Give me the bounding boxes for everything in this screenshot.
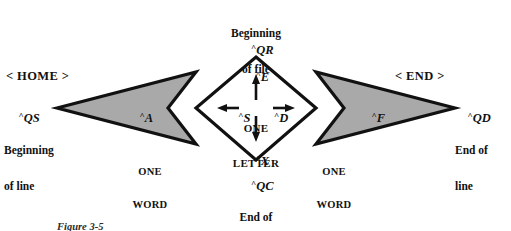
right-description: End of line xyxy=(455,120,511,217)
right-unit-label: ONE WORD xyxy=(289,144,379,231)
top-inner-command: ^E xyxy=(226,58,286,97)
top-inner-command-text: E xyxy=(261,70,269,84)
center-unit-line1: ONE xyxy=(216,123,296,135)
left-word-command: ^A xyxy=(115,99,165,138)
left-word-command-text: A xyxy=(145,111,153,125)
top-command-text: QR xyxy=(256,43,273,57)
end-key-label: < END > xyxy=(395,70,510,83)
left-description-line1: Beginning xyxy=(4,144,114,156)
center-unit-line2: LETTER xyxy=(216,158,296,170)
center-unit-label: ONE LETTER xyxy=(216,100,296,192)
left-description-line2: of line xyxy=(4,180,114,192)
figure-caption: Figure 3-5 xyxy=(57,221,103,231)
left-description: Beginning of line xyxy=(4,120,114,217)
home-key-label: < HOME > xyxy=(6,70,116,83)
right-word-command: ^F xyxy=(347,99,397,138)
left-unit-line2: WORD xyxy=(105,199,195,210)
cursor-movement-diagram: Beginning of file ^QR ^E ^X ^QC End of f… xyxy=(0,0,511,231)
right-word-command-text: F xyxy=(377,111,385,125)
right-description-line1: End of xyxy=(455,144,511,156)
right-unit-line2: WORD xyxy=(289,199,379,210)
right-description-line2: line xyxy=(455,180,511,192)
left-unit-line1: ONE xyxy=(105,166,195,177)
right-unit-line1: ONE xyxy=(289,166,379,177)
left-unit-label: ONE WORD xyxy=(105,144,195,231)
